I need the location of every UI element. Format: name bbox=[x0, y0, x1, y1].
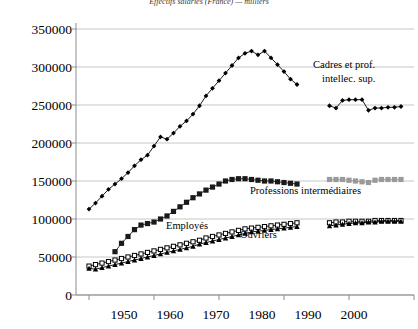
y-tick-label: 100000 bbox=[32, 213, 73, 227]
data-point bbox=[242, 176, 247, 181]
data-point bbox=[379, 106, 384, 111]
data-point bbox=[372, 178, 377, 183]
data-point bbox=[392, 105, 397, 110]
data-point bbox=[119, 241, 124, 246]
data-point bbox=[249, 49, 254, 54]
annotation-ouvriers: Ouvriers bbox=[240, 229, 277, 241]
x-tick-label: 1990 bbox=[288, 308, 328, 322]
data-point bbox=[132, 253, 136, 257]
data-point bbox=[217, 233, 221, 237]
data-point bbox=[386, 105, 391, 110]
data-point bbox=[216, 181, 221, 186]
data-point bbox=[164, 213, 169, 218]
data-point bbox=[327, 177, 332, 182]
data-point bbox=[177, 204, 182, 209]
data-point bbox=[151, 219, 156, 224]
data-point bbox=[347, 97, 352, 102]
data-point bbox=[353, 178, 358, 183]
data-point bbox=[190, 195, 195, 200]
y-axis-tick-labels: 350000 300000 250000 200000 150000 10000… bbox=[0, 0, 72, 329]
data-point bbox=[268, 178, 273, 183]
data-point bbox=[236, 176, 241, 181]
data-point bbox=[230, 230, 234, 234]
data-point bbox=[152, 249, 156, 253]
data-point bbox=[346, 178, 351, 183]
data-point bbox=[138, 222, 143, 227]
y-tick-label: 0 bbox=[65, 289, 72, 303]
data-point bbox=[184, 200, 189, 205]
annotation-professions-intermediaires: Professions intermédiaires bbox=[250, 185, 361, 197]
data-point bbox=[340, 177, 345, 182]
data-point bbox=[171, 209, 176, 214]
data-point bbox=[93, 263, 97, 267]
y-tick-label: 350000 bbox=[32, 23, 73, 37]
data-point bbox=[210, 234, 214, 238]
x-tick-label: 1980 bbox=[242, 308, 282, 322]
annotation-cadres-line1: Cadres et prof. bbox=[313, 59, 375, 71]
data-point bbox=[256, 52, 261, 57]
data-point bbox=[126, 255, 130, 259]
data-point bbox=[249, 177, 254, 182]
data-point bbox=[392, 177, 397, 182]
data-point bbox=[158, 247, 162, 251]
x-tick-label: 2000 bbox=[334, 308, 374, 322]
y-tick-label: 50000 bbox=[38, 251, 72, 265]
y-tick-label: 200000 bbox=[32, 137, 73, 151]
data-point bbox=[333, 177, 338, 182]
data-point bbox=[203, 188, 208, 193]
data-point bbox=[398, 177, 403, 182]
data-point bbox=[327, 103, 332, 108]
data-point bbox=[275, 179, 280, 184]
data-point bbox=[360, 97, 365, 102]
data-point bbox=[100, 261, 104, 265]
y-tick-label: 250000 bbox=[32, 99, 73, 113]
data-point bbox=[359, 179, 364, 184]
data-point bbox=[119, 256, 123, 260]
chart-figure: Effectifs salariés (France) — milliers 3… bbox=[0, 0, 418, 329]
data-point bbox=[139, 252, 143, 256]
data-point bbox=[145, 250, 149, 254]
data-point bbox=[191, 240, 195, 244]
data-point bbox=[373, 106, 378, 111]
annotation-cadres-line2: intellec. sup. bbox=[322, 73, 375, 85]
data-point bbox=[184, 241, 188, 245]
data-point bbox=[379, 177, 384, 182]
data-point bbox=[190, 244, 195, 249]
x-tick-label: 1950 bbox=[104, 308, 144, 322]
data-point bbox=[210, 184, 215, 189]
data-point bbox=[165, 246, 169, 250]
data-point bbox=[197, 191, 202, 196]
data-point bbox=[223, 231, 227, 235]
data-point bbox=[125, 234, 130, 239]
data-point bbox=[145, 221, 150, 226]
data-point bbox=[178, 243, 182, 247]
data-point bbox=[106, 259, 110, 263]
y-tick-label: 300000 bbox=[32, 61, 73, 75]
data-point bbox=[353, 97, 358, 102]
x-tick-label: 1960 bbox=[150, 308, 190, 322]
data-point bbox=[112, 249, 117, 254]
data-point bbox=[204, 236, 208, 240]
data-point bbox=[223, 178, 228, 183]
annotation-employes: Employés bbox=[166, 220, 208, 232]
data-point bbox=[366, 180, 371, 185]
data-point bbox=[113, 258, 117, 262]
y-tick-label: 150000 bbox=[32, 175, 73, 189]
data-point bbox=[366, 108, 371, 113]
x-tick-label: 1970 bbox=[196, 308, 236, 322]
data-point bbox=[158, 216, 163, 221]
data-point bbox=[255, 178, 260, 183]
data-point bbox=[385, 177, 390, 182]
data-point bbox=[229, 177, 234, 182]
data-point bbox=[132, 227, 137, 232]
data-point bbox=[262, 178, 267, 183]
data-point bbox=[171, 244, 175, 248]
